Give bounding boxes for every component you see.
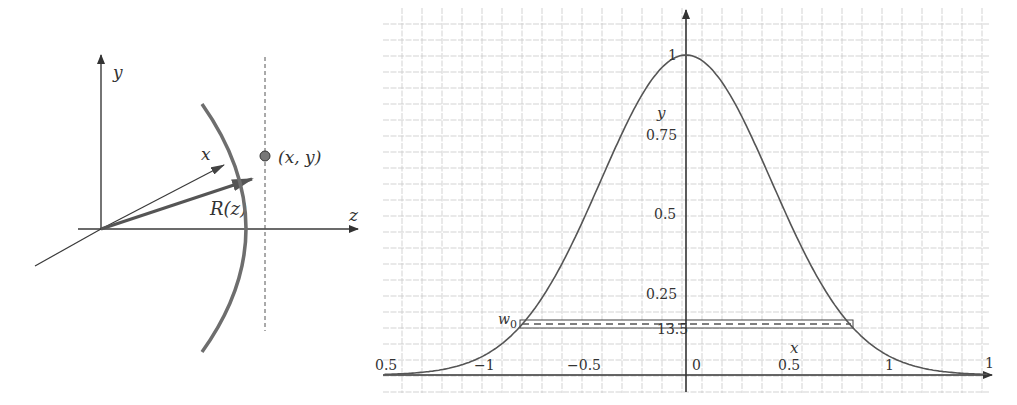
wavefront-arc <box>202 104 246 352</box>
x-tick-neg05: −0.5 <box>567 357 601 373</box>
y-tick-05: 0.5 <box>654 206 676 222</box>
y-tick-025: 0.25 <box>646 286 677 302</box>
point-marker <box>260 151 270 161</box>
band-value-label: 13.5 <box>657 321 688 337</box>
x-tick-right-edge: 1 <box>985 355 994 371</box>
x-tick-neg1: −1 <box>474 357 495 373</box>
x-tick-05: 0.5 <box>778 357 800 373</box>
wavefront-diagram: y z x R(z) (x, y) <box>35 55 359 352</box>
z-axis-label: z <box>348 205 359 225</box>
y-tick-075: 0.75 <box>646 127 677 143</box>
y-tick-1: 1 <box>668 47 677 63</box>
chart-y-axis-label: y <box>656 104 666 122</box>
y-axis-label: y <box>112 62 123 82</box>
x-axis-back <box>35 229 101 266</box>
radius-label: R(z) <box>209 198 247 219</box>
x-tick-left-edge: 0.5 <box>375 357 397 373</box>
x-tick-1: 1 <box>885 357 894 373</box>
figure-canvas: y z x R(z) (x, y) 1 y 0.75 0 <box>0 0 1017 405</box>
gaussian-chart: 1 y 0.75 0.5 0.25 13.5 w0 0.5 −1 −0.5 0 … <box>375 8 994 393</box>
x-axis <box>101 165 224 229</box>
x-axis-label: x <box>201 144 211 164</box>
x-tick-0: 0 <box>692 357 701 373</box>
chart-x-axis-label: x <box>790 339 799 357</box>
point-label: (x, y) <box>278 147 321 167</box>
